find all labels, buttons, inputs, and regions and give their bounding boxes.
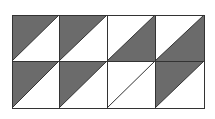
grid-cell-r1-c4: [155, 15, 205, 62]
triangle-grid-diagram: [0, 0, 215, 119]
grid-cell-r2-c1: [12, 61, 60, 109]
grid-cell-r2-c4: [155, 61, 205, 109]
grid-cell-r2-c3: [107, 61, 156, 109]
grid-cell-r1-c1: [12, 15, 60, 62]
grid-cell-r1-c2: [59, 15, 108, 62]
grid-cell-r1-c3: [107, 15, 156, 62]
grid-cell-r2-c2: [59, 61, 108, 109]
